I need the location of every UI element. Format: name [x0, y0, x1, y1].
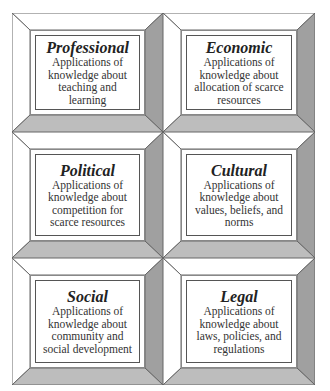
cell-description: Applications of knowledge about allocati…: [187, 56, 291, 106]
cell-description: Applications of knowledge about teaching…: [36, 56, 139, 106]
cell-title: Political: [60, 162, 115, 179]
cell-description: Applications of knowledge about competit…: [36, 179, 139, 229]
content-box: Cultural Applications of knowledge about…: [186, 154, 292, 236]
content-box: Professional Applications of knowledge a…: [35, 35, 140, 110]
cell-cultural: Cultural Applications of knowledge about…: [163, 132, 315, 258]
cell-title: Economic: [206, 39, 273, 56]
content-box: Economic Applications of knowledge about…: [186, 35, 292, 110]
cell-description: Applications of knowledge about values, …: [187, 179, 291, 229]
content-box: Social Applications of knowledge about c…: [35, 280, 140, 363]
cell-political: Political Applications of knowledge abou…: [12, 132, 163, 258]
cell-social: Social Applications of knowledge about c…: [12, 258, 163, 385]
cell-title: Legal: [220, 288, 257, 305]
cell-description: Applications of knowledge about communit…: [36, 305, 139, 355]
cell-legal: Legal Applications of knowledge about la…: [163, 258, 315, 385]
domains-diagram: Professional Applications of knowledge a…: [12, 13, 315, 385]
content-box: Political Applications of knowledge abou…: [35, 154, 140, 236]
cell-title: Cultural: [211, 162, 267, 179]
cell-title: Social: [67, 288, 108, 305]
cell-title: Professional: [46, 39, 129, 56]
cell-professional: Professional Applications of knowledge a…: [12, 13, 163, 132]
cell-economic: Economic Applications of knowledge about…: [163, 13, 315, 132]
cell-description: Applications of knowledge about laws, po…: [187, 305, 291, 355]
content-box: Legal Applications of knowledge about la…: [186, 280, 292, 363]
